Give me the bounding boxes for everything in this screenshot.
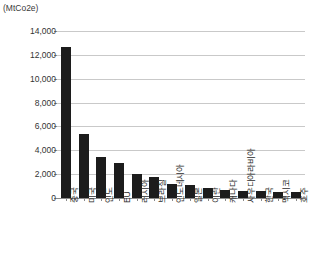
x-axis-tick-label: 인도네시아	[176, 164, 185, 203]
x-axis-tick-label: 중국	[70, 187, 79, 203]
x-axis-tick-mark	[278, 198, 279, 201]
y-axis-tick-label: 0	[51, 193, 56, 203]
y-axis-tick-label: 14,000	[30, 26, 56, 36]
gridline	[57, 79, 305, 80]
x-axis-tick-mark	[243, 198, 244, 201]
x-axis-tick-mark	[154, 198, 155, 201]
x-axis-tick-mark	[261, 198, 262, 201]
x-axis-tick-label: 일본	[194, 187, 203, 203]
x-axis-tick-label: 이란	[212, 187, 221, 203]
x-axis-tick-label: 인도	[105, 187, 114, 203]
gridline	[57, 150, 305, 151]
x-axis-tick-mark	[225, 198, 226, 201]
x-axis-tick-mark	[66, 198, 67, 201]
x-axis-tick-mark	[190, 198, 191, 201]
y-axis-tick-label: 4,000	[35, 145, 56, 155]
y-axis-tick-label: 2,000	[35, 169, 56, 179]
x-axis-tick-mark	[119, 198, 120, 201]
bar	[61, 47, 71, 198]
gridline	[57, 103, 305, 104]
y-axis-tick-label: 8,000	[35, 98, 56, 108]
y-axis-tick-label: 12,000	[30, 50, 56, 60]
x-axis-tick-mark	[137, 198, 138, 201]
x-axis-tick-label: 미국	[88, 187, 97, 203]
x-axis-tick-label: 멕시코	[282, 180, 291, 203]
bar-chart: 02,0004,0006,0008,00010,00012,00014,000 …	[0, 0, 315, 271]
y-axis-tick-label: 6,000	[35, 121, 56, 131]
x-axis-tick-label: 한국	[265, 187, 274, 203]
x-axis-tick-label: 러시아	[141, 180, 150, 203]
x-axis-tick-label: 호주	[300, 187, 309, 203]
x-axis-tick-mark	[101, 198, 102, 201]
x-axis-tick-mark	[208, 198, 209, 201]
gridline	[57, 31, 305, 32]
gridline	[57, 55, 305, 56]
x-axis-tick-mark	[296, 198, 297, 201]
gridline	[57, 126, 305, 127]
x-axis-tick-label: 사우디아라비아	[247, 148, 256, 203]
x-axis-tick-mark	[172, 198, 173, 201]
y-axis-tick-label: 10,000	[30, 74, 56, 84]
x-axis-tick-label: 캐나다	[229, 180, 238, 203]
x-axis-tick-mark	[84, 198, 85, 201]
x-axis-tick-label: 브라질	[158, 180, 167, 203]
x-axis-tick-label: EU	[123, 192, 132, 203]
